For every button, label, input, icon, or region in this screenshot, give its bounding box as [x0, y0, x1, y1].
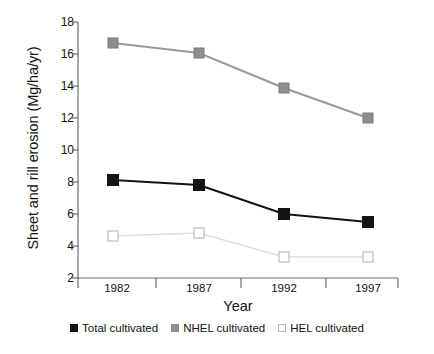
- chart-legend: Total cultivated NHEL cultivated HEL cul…: [0, 322, 434, 334]
- legend-label-hel-cultivated: HEL cultivated: [290, 322, 364, 334]
- open-square-icon: [278, 324, 286, 332]
- data-point-nhel-1992: [279, 83, 289, 93]
- legend-label-total-cultivated: Total cultivated: [82, 322, 158, 334]
- series-total-cultivated: [107, 174, 374, 228]
- series-hel-cultivated: [108, 228, 373, 262]
- data-point-hel-1997: [363, 252, 373, 262]
- legend-item-total-cultivated: Total cultivated: [70, 322, 158, 334]
- legend-item-hel-cultivated: HEL cultivated: [278, 322, 364, 334]
- x-tick-label-1997: 1997: [338, 282, 398, 294]
- x-tick-label-1982: 1982: [87, 282, 147, 294]
- data-point-total-1982: [107, 174, 119, 186]
- data-point-nhel-1997: [363, 113, 373, 123]
- data-point-hel-1982: [108, 231, 118, 241]
- data-point-total-1992: [278, 208, 290, 220]
- filled-square-icon: [171, 324, 179, 332]
- data-point-nhel-1987: [194, 48, 204, 58]
- y-axis-ticks: [72, 22, 78, 278]
- x-tick-label-1992: 1992: [254, 282, 314, 294]
- data-point-nhel-1982: [108, 38, 118, 48]
- filled-square-icon: [70, 324, 78, 332]
- data-point-hel-1987: [194, 228, 204, 238]
- x-axis-title: Year: [78, 298, 398, 314]
- chart-figure: Sheet and rill erosion (Mg/ha/yr) 18 16 …: [0, 0, 434, 354]
- legend-label-nhel-cultivated: NHEL cultivated: [183, 322, 265, 334]
- data-point-total-1987: [193, 179, 205, 191]
- data-point-hel-1992: [279, 252, 289, 262]
- data-point-total-1997: [362, 216, 374, 228]
- x-tick-label-1987: 1987: [169, 282, 229, 294]
- series-nhel-cultivated: [108, 38, 373, 123]
- legend-item-nhel-cultivated: NHEL cultivated: [171, 322, 265, 334]
